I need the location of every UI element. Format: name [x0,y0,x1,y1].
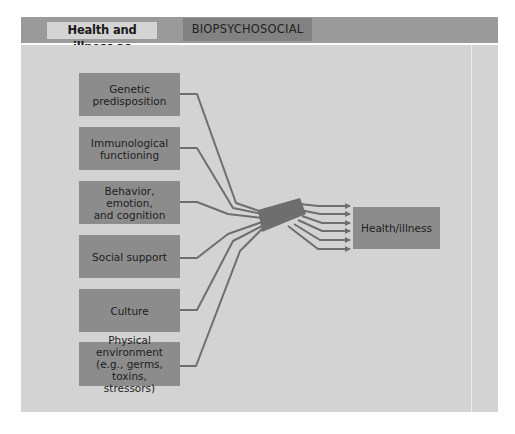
arrow-3 [302,216,350,223]
factor-immunological-functioning: Immunological functioning [79,127,180,170]
connector-social [179,222,262,258]
factor-physical-environment: Physical environment (e.g., germs, toxin… [79,342,180,386]
factor-behavior-emotion-cognition: Behavior, emotion, and cognition [79,181,180,224]
connector-genetic [179,94,262,212]
connector-physical [179,229,262,366]
arrow-1 [300,204,350,206]
factor-genetic-predisposition: Genetic predisposition [79,73,180,116]
factor-social-support: Social support [79,235,180,278]
outcome-health-illness: Health/illness [353,207,440,249]
arrow-4 [298,220,350,231]
connector-behavior [179,202,262,218]
factor-culture: Culture [79,289,180,332]
arrow-2 [300,210,350,214]
